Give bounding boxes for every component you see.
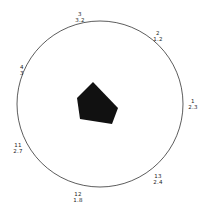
label-13: 132.4	[150, 173, 166, 185]
radar-diagram	[0, 0, 215, 214]
label-12: 121.8	[70, 191, 86, 203]
label-11: 112.7	[10, 142, 26, 154]
label-4: 43	[14, 64, 30, 76]
filled-polygon	[77, 82, 118, 124]
label-3: 33.2	[72, 11, 88, 23]
label-1: 12.3	[185, 98, 201, 110]
label-2: 21.2	[150, 30, 166, 42]
